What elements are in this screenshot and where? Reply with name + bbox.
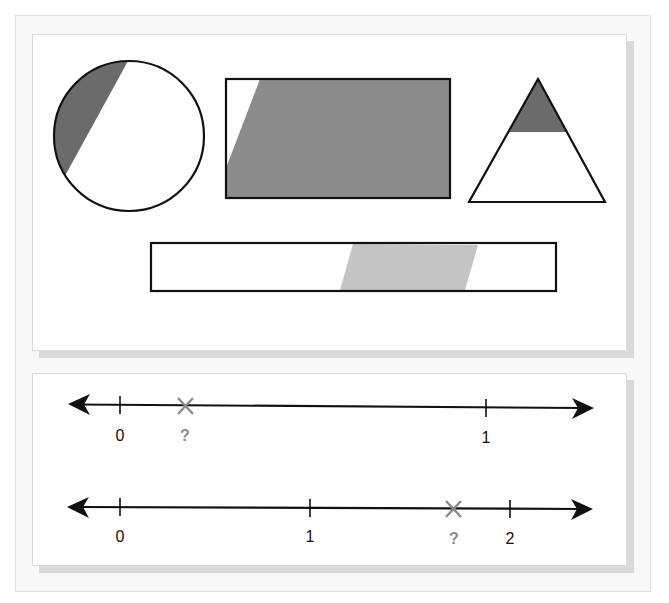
unknown-label: ? [449, 530, 459, 547]
shaded-triangle [460, 70, 620, 202]
bar-shaded-band [340, 244, 478, 290]
tick-label-0: 0 [116, 528, 125, 545]
tick-label-0: 0 [116, 427, 125, 444]
tick-label-2: 2 [506, 530, 515, 547]
tick-label-1: 1 [306, 528, 315, 545]
diagram-canvas: 0 ? 1 0 1 ? 2 [0, 0, 669, 603]
shaded-circle [40, 55, 204, 220]
number-line-1: 0 ? 1 [68, 394, 594, 446]
number-line-2: 0 1 ? 2 [67, 497, 593, 547]
triangle-shaded-top [460, 70, 620, 132]
tick-label-1: 1 [482, 429, 491, 446]
unknown-label: ? [180, 427, 190, 444]
shaded-rectangle [226, 79, 450, 198]
shaded-bar [151, 243, 556, 291]
